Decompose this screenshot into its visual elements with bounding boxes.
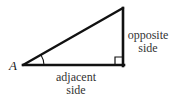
opposite-label-line2: side (127, 42, 169, 55)
angle-arc-icon (41, 55, 44, 65)
adjacent-label-line2: side (50, 84, 102, 97)
opposite-side-label: opposite side (127, 29, 169, 55)
vertex-a-label: A (9, 59, 17, 72)
adjacent-side-label: adjacent side (50, 71, 102, 97)
hypotenuse-line (23, 8, 123, 65)
right-triangle-diagram: A opposite side adjacent side (0, 0, 180, 103)
